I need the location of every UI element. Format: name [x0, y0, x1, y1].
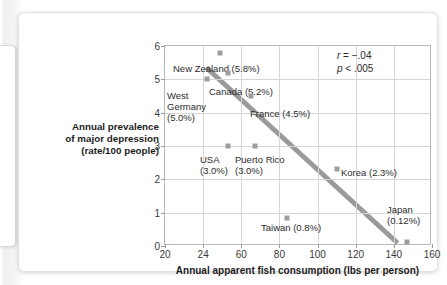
- data-point-marker[interactable]: [248, 94, 253, 99]
- data-point-marker[interactable]: [334, 167, 339, 172]
- data-point-label: USA (3.0%): [200, 154, 228, 176]
- gridline-vertical: [356, 46, 357, 244]
- data-point-marker[interactable]: [252, 144, 257, 149]
- y-axis-title-line-2: of major depression: [39, 133, 159, 145]
- data-point-label: Japan (0.12%): [387, 204, 420, 226]
- x-axis-tick-mark: [279, 244, 280, 248]
- data-point-marker[interactable]: [225, 70, 230, 75]
- y-axis-tick-mark: [161, 46, 165, 47]
- gridline-vertical: [279, 46, 280, 244]
- data-point-label: Taiwan (0.8%): [261, 222, 321, 233]
- statistics-annotation: r = −.04 p < .005: [337, 49, 373, 75]
- y-axis-tick-label: 5: [154, 74, 160, 85]
- y-axis-tick-mark: [161, 146, 165, 147]
- x-axis-tick-label: 160: [424, 249, 441, 260]
- x-axis-tick-label: 140: [386, 249, 403, 260]
- adjacent-panel: [0, 45, 16, 247]
- plot-area: 012345620246080100120140160New Zealand (…: [164, 45, 431, 245]
- y-axis-title-line-3: (rate/100 people): [39, 145, 159, 157]
- x-axis-tick-mark: [356, 244, 357, 248]
- x-axis-tick-label: 24: [198, 249, 209, 260]
- p-value: < .005: [343, 63, 374, 74]
- data-point-marker[interactable]: [285, 216, 290, 221]
- data-point-marker[interactable]: [405, 240, 410, 245]
- gridline-horizontal: [165, 179, 430, 180]
- x-axis-tick-label: 120: [347, 249, 364, 260]
- data-point-marker[interactable]: [218, 50, 223, 55]
- data-point-marker[interactable]: [225, 144, 230, 149]
- x-axis-tick-label: 60: [236, 249, 247, 260]
- gridline-horizontal: [165, 146, 430, 147]
- data-point-label: West Germany (5.0%): [167, 90, 206, 123]
- y-axis-tick-label: 6: [154, 41, 160, 52]
- y-axis-tick-label: 4: [154, 107, 160, 118]
- data-point-label: Korea (2.3%): [341, 167, 397, 178]
- y-axis-tick-mark: [161, 213, 165, 214]
- x-axis-tick-label: 20: [159, 249, 170, 260]
- x-axis-tick-mark: [394, 244, 395, 248]
- data-point-label: New Zealand (5.8%): [173, 63, 260, 74]
- y-axis-title-line-1: Annual prevalence: [39, 121, 159, 133]
- x-axis-tick-label: 100: [309, 249, 326, 260]
- y-axis-tick-mark: [161, 113, 165, 114]
- pvalue-annotation: p < .005: [337, 62, 373, 75]
- y-axis-tick-mark: [161, 179, 165, 180]
- data-point-label: Puerto Rico (3.0%): [235, 154, 285, 176]
- x-axis-tick-mark: [318, 244, 319, 248]
- y-axis-tick-mark: [161, 79, 165, 80]
- correlation-annotation: r = −.04: [337, 49, 373, 62]
- gridline-vertical: [318, 46, 319, 244]
- x-axis-tick-mark: [432, 244, 433, 248]
- x-axis-tick-label: 80: [274, 249, 285, 260]
- y-axis-tick-label: 1: [154, 207, 160, 218]
- data-point-label: Canada (5.2%): [209, 86, 273, 97]
- y-axis-title: Annual prevalence of major depression (r…: [39, 121, 159, 157]
- data-point-label: France (4.5%): [250, 108, 310, 119]
- screenshot-root: Annual prevalence of major depression (r…: [0, 0, 447, 285]
- r-value: = −.04: [340, 50, 371, 61]
- x-axis-title: Annual apparent fish consumption (lbs pe…: [164, 265, 431, 276]
- gridline-vertical: [203, 46, 204, 244]
- y-axis-tick-label: 2: [154, 174, 160, 185]
- x-axis-tick-mark: [203, 244, 204, 248]
- x-axis-tick-mark: [165, 244, 166, 248]
- x-axis-tick-mark: [241, 244, 242, 248]
- data-point-marker[interactable]: [205, 77, 210, 82]
- gridline-vertical: [241, 46, 242, 244]
- figure-card: Annual prevalence of major depression (r…: [18, 12, 438, 272]
- y-axis-tick-label: 3: [154, 141, 160, 152]
